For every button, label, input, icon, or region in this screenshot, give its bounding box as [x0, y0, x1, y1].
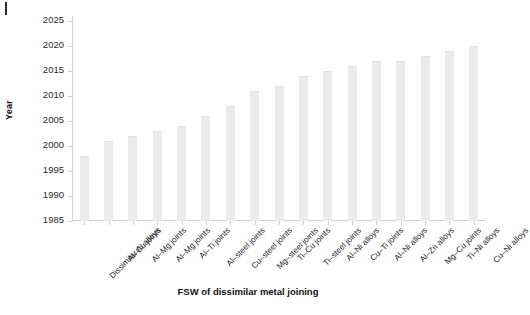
y-tick-label: 2020 [43, 39, 64, 50]
y-tick-label: 1995 [43, 164, 64, 175]
y-tick-label: 2005 [43, 114, 64, 125]
x-tick-mark [303, 221, 304, 225]
bar [250, 91, 259, 221]
y-tick-label: 1985 [43, 214, 64, 225]
y-tick-label: 2010 [43, 89, 64, 100]
x-axis-title: FSW of dissimilar metal joining [0, 286, 496, 297]
bar [445, 51, 454, 221]
x-tick-mark [182, 221, 183, 225]
bar [153, 131, 162, 221]
bar [469, 46, 478, 221]
x-tick-mark [109, 221, 110, 225]
y-tick-mark [68, 221, 72, 222]
bar [348, 66, 357, 221]
x-tick-mark [401, 221, 402, 225]
x-tick-mark [133, 221, 134, 225]
y-tick-label: 1990 [43, 189, 64, 200]
bar [226, 106, 235, 221]
y-tick-label: 2015 [43, 64, 64, 75]
crop-tick-mark [5, 2, 7, 15]
x-tick-mark [449, 221, 450, 225]
bar [275, 86, 284, 221]
y-tick-label: 2025 [43, 14, 64, 25]
plot-area: 198519901995200020052010201520202025 [72, 21, 486, 221]
x-tick-mark [352, 221, 353, 225]
x-tick-mark [206, 221, 207, 225]
bar [80, 156, 89, 221]
y-tick-label: 2000 [43, 139, 64, 150]
bar [372, 61, 381, 221]
bar [128, 136, 137, 221]
bar [299, 76, 308, 221]
bar [104, 141, 113, 221]
x-tick-mark [255, 221, 256, 225]
x-tick-mark [279, 221, 280, 225]
bar [421, 56, 430, 221]
bar [396, 61, 405, 221]
bar [201, 116, 210, 221]
x-tick-mark [425, 221, 426, 225]
x-tick-mark [376, 221, 377, 225]
x-tick-mark [328, 221, 329, 225]
x-tick-mark [474, 221, 475, 225]
x-tick-mark [84, 221, 85, 225]
x-tick-mark [157, 221, 158, 225]
bar [323, 71, 332, 221]
x-tick-mark [230, 221, 231, 225]
bar [177, 126, 186, 221]
y-axis-title: Year [4, 80, 14, 140]
bar-series [72, 21, 486, 221]
